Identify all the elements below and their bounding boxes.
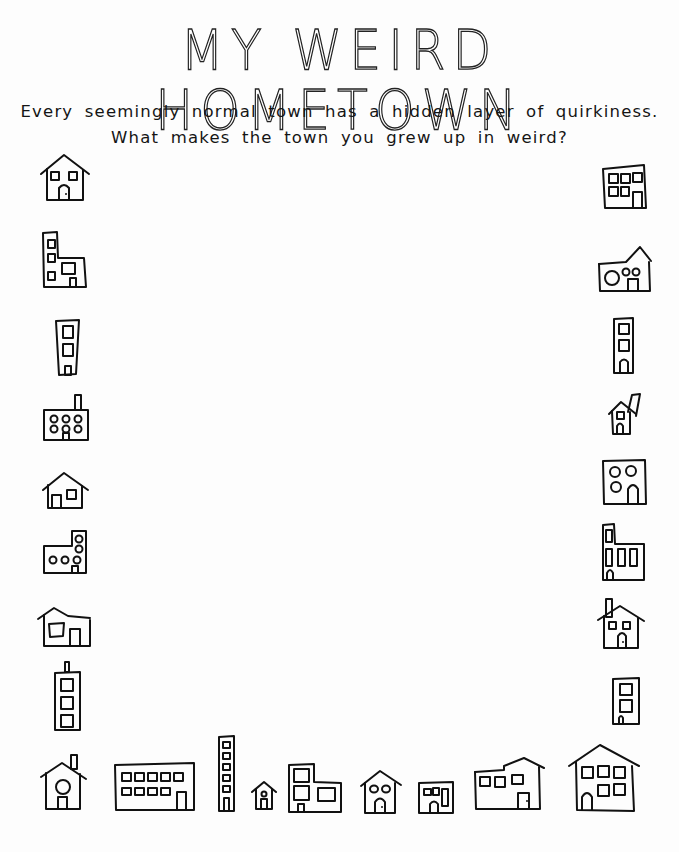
tiny-house-icon [606, 392, 640, 438]
house-icon [36, 605, 94, 651]
building-icon [40, 528, 92, 578]
stepped-building-icon [286, 762, 344, 814]
house-icon [596, 244, 652, 296]
house-icon [38, 152, 92, 202]
tower-icon [610, 676, 642, 728]
split-level-house-icon [472, 756, 546, 814]
house-icon [596, 596, 646, 652]
building-icon [600, 522, 648, 584]
tower-icon [611, 316, 637, 376]
factory-icon [40, 392, 92, 444]
prompt-line-2: What makes the town you grew up in weird… [0, 128, 679, 147]
building-icon [40, 230, 88, 290]
skinny-tower-icon [216, 734, 238, 814]
square-building-icon [600, 458, 648, 508]
tower-icon [52, 660, 84, 732]
apartment-icon [600, 162, 650, 212]
house-icon [40, 470, 92, 510]
long-building-icon [112, 760, 198, 814]
worksheet-title: MY WEIRD HOMETOWN [34, 20, 645, 140]
tower-icon [53, 318, 83, 378]
shop-icon [416, 780, 456, 816]
tiny-house-icon [250, 780, 278, 812]
house-icon [38, 752, 90, 812]
prompt-line-1: Every seemingly normal town has a hidden… [0, 102, 679, 121]
big-house-icon [566, 742, 642, 814]
house-icon [358, 768, 404, 816]
